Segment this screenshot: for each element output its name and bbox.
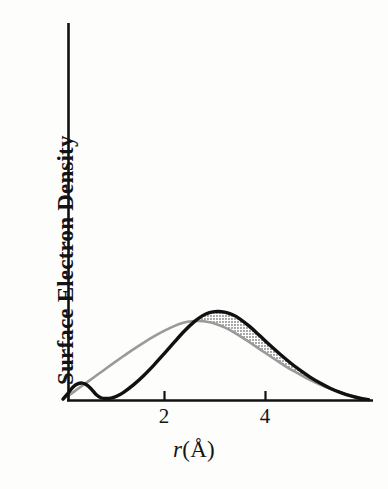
x-axis-label: r(Å)	[0, 437, 388, 463]
y-axis-label: Surface Electron Density	[46, 25, 86, 385]
x-axis-label-open-paren: (	[182, 437, 190, 462]
x-axis-label-symbol: r	[173, 437, 182, 462]
figure-container: 2 4 Surface Electron Density r(Å)	[0, 0, 388, 489]
x-tick-label-2: 2	[149, 404, 179, 429]
x-axis-label-unit: Å	[190, 437, 207, 462]
gray-density-curve	[63, 321, 369, 400]
x-tick-label-4: 4	[250, 404, 280, 429]
x-axis-label-close-paren: )	[207, 437, 215, 462]
